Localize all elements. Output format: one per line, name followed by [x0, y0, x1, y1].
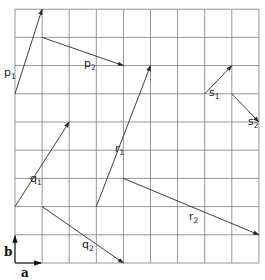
basis-a-label: a: [21, 266, 29, 280]
grid-lines: [15, 9, 259, 263]
vector-q1-label: q1: [30, 172, 42, 187]
vectors: [15, 9, 259, 263]
vector-s2-arrow: [232, 94, 259, 122]
vector-r2-label: r2: [189, 210, 199, 225]
vector-p1-arrow: [15, 9, 42, 94]
basis-vectors: ab: [4, 236, 41, 280]
vector-p1-label: p1: [4, 66, 16, 81]
basis-b-label: b: [4, 245, 12, 259]
vector-grid-diagram: ab p1p2q1q2r1r2s1s2: [0, 0, 265, 280]
vector-s2-label: s2: [248, 115, 259, 130]
vector-q2-label: q2: [82, 238, 94, 253]
vector-p2-label: p2: [84, 57, 96, 72]
vector-s1-label: s1: [209, 86, 220, 101]
vector-p2-arrow: [42, 37, 123, 65]
